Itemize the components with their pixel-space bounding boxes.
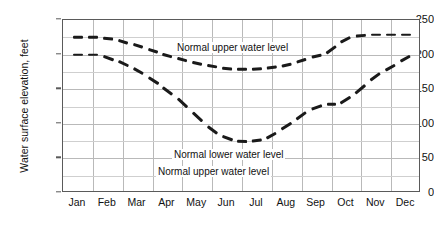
series-1-dash: [370, 72, 381, 81]
gridline-horizontal: [63, 55, 419, 56]
series-0-dash: [192, 61, 202, 66]
series-0-dash: [252, 67, 262, 70]
gridline-vertical: [93, 20, 94, 191]
gridline-horizontal: [63, 89, 419, 90]
series-0-dash: [401, 33, 411, 36]
series-0-dash: [281, 62, 291, 67]
series-1-dash: [88, 53, 98, 56]
series-1-dash: [73, 53, 83, 56]
x-axis-tick-label: Dec: [385, 196, 425, 208]
y-axis-tick-mark: [56, 18, 61, 19]
y-axis-tick-mark: [56, 157, 61, 158]
series-0-dash: [103, 36, 113, 39]
chart-annotation: Normal upper water level: [156, 166, 271, 177]
y-axis-tick-mark: [56, 53, 61, 54]
gridline-horizontal: [63, 37, 419, 38]
y-axis-tick-mark: [56, 191, 61, 192]
series-1-dash: [340, 95, 351, 104]
gridline-horizontal: [63, 72, 419, 73]
series-1-dash: [192, 112, 204, 123]
series-1-dash: [311, 104, 322, 110]
series-1-dash: [400, 55, 411, 63]
series-0-dash: [88, 36, 98, 39]
y-axis-tick-mark: [56, 87, 61, 88]
gridline-vertical: [153, 20, 154, 191]
series-0-dash: [162, 53, 173, 58]
series-0-dash: [222, 67, 232, 70]
series-0-dash: [386, 33, 396, 36]
water-level-chart: Water surface elevation, feet 0501001502…: [0, 0, 434, 230]
gridline-vertical: [391, 20, 392, 191]
y-axis-tick-mark: [56, 122, 61, 123]
series-1-dash: [237, 139, 247, 142]
gridline-vertical: [302, 20, 303, 191]
series-1-dash: [222, 135, 233, 141]
series-1-dash: [327, 103, 337, 106]
series-0-dash: [371, 33, 381, 36]
gridline-horizontal: [63, 124, 419, 125]
series-0-dash: [133, 43, 144, 49]
series-0-dash: [73, 36, 83, 39]
series-0-dash: [311, 54, 321, 59]
series-1-dash: [162, 86, 173, 95]
gridline-vertical: [123, 20, 124, 191]
series-0-dash: [237, 68, 247, 71]
gridline-horizontal: [63, 107, 419, 108]
chart-annotation: Normal lower water level: [172, 149, 285, 160]
chart-annotation: Normal upper water level: [175, 42, 290, 53]
series-0-dash: [356, 33, 366, 36]
y-axis-title: Water surface elevation, feet: [18, 21, 30, 191]
gridline-vertical: [361, 20, 362, 191]
